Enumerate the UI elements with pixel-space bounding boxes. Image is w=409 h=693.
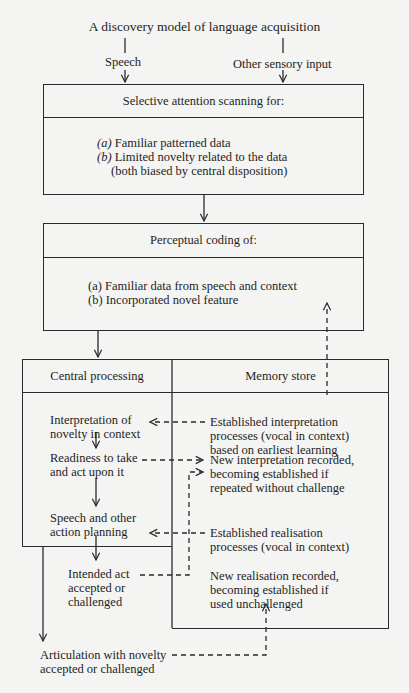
memory-store-header: Memory store xyxy=(172,369,389,383)
list-item: (b) Incorporated novel feature xyxy=(88,293,238,307)
memory-new-interpretation: New interpretation recorded,becoming est… xyxy=(210,453,354,495)
memory-new-realisation: New realisation recorded,becoming establ… xyxy=(210,569,339,611)
memory-box-right xyxy=(388,392,389,629)
divider xyxy=(22,392,389,393)
memory-established-realisation: Established realisationprocesses (vocal … xyxy=(210,526,349,554)
selective-attention-header: Selective attention scanning for: xyxy=(43,94,364,108)
selective-attention-list: (a) Familiar patterned data (b) Limited … xyxy=(97,136,287,178)
step-action-planning: Speech and otheraction planning xyxy=(50,511,136,539)
step-readiness: Readiness to takeand act upon it xyxy=(50,451,137,479)
list-item: (b) Limited novelty related to the data xyxy=(97,150,287,164)
list-item: (a) Familiar patterned data xyxy=(97,136,287,150)
list-item: (both biased by central disposition) xyxy=(97,164,287,178)
divider xyxy=(43,117,364,118)
step-intended-act: Intended actaccepted orchallenged xyxy=(68,567,129,609)
list-item: (a) Familiar data from speech and contex… xyxy=(88,279,297,293)
diagram-title: A discovery model of language acquisitio… xyxy=(0,20,409,34)
divider xyxy=(43,257,364,258)
input-speech: Speech xyxy=(105,55,141,69)
articulation-output: Articulation with noveltyaccepted or cha… xyxy=(40,648,166,676)
memory-box-bottom xyxy=(172,628,389,629)
memory-established-interpretation: Established interpretationprocesses (voc… xyxy=(210,415,349,457)
central-processing-header: Central processing xyxy=(22,369,172,383)
perceptual-coding-header: Perceptual coding of: xyxy=(43,233,364,247)
step-interpretation: Interpretation ofnovelty in context xyxy=(50,413,140,441)
central-box-left xyxy=(22,392,23,547)
central-box-bottom xyxy=(22,546,172,547)
input-other-sensory: Other sensory input xyxy=(233,57,332,71)
